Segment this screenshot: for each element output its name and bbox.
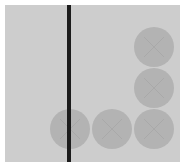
circle-piece[interactable] [134,68,174,108]
vertical-divider-bar [67,5,71,162]
x-mark-icon [92,109,132,149]
circle-piece[interactable] [134,27,174,67]
x-mark-icon [134,27,174,67]
circle-piece[interactable] [134,109,174,149]
x-mark-icon [134,109,174,149]
x-mark-icon [134,68,174,108]
circle-piece[interactable] [92,109,132,149]
